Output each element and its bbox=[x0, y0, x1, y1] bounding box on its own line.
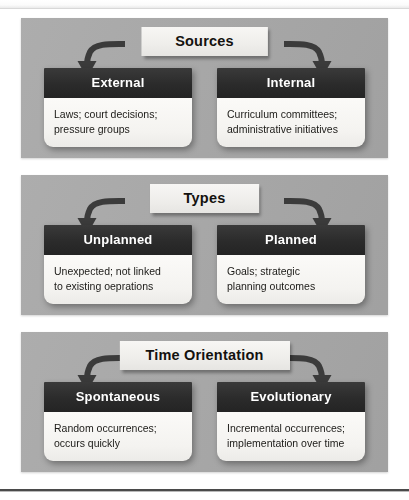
card-body: Laws; court decisions; pressure groups bbox=[44, 98, 192, 147]
card-body-line: Random occurrences; bbox=[54, 421, 183, 436]
card-body-line: implementation over time bbox=[227, 436, 356, 451]
card-heading: Unplanned bbox=[44, 225, 192, 255]
card-external: External Laws; court decisions; pressure… bbox=[44, 68, 192, 147]
card-body: Random occurrences; occurs quickly bbox=[44, 412, 192, 461]
panel-sources: Sources External Laws; court decisions; … bbox=[21, 18, 388, 158]
panel-title-sources: Sources bbox=[141, 27, 268, 56]
card-planned: Planned Goals; strategic planning outcom… bbox=[217, 225, 365, 304]
card-body: Goals; strategic planning outcomes bbox=[217, 255, 365, 304]
card-internal: Internal Curriculum committees; administ… bbox=[217, 68, 365, 147]
card-body-line: Unexpected; not linked bbox=[54, 264, 183, 279]
card-heading: Spontaneous bbox=[44, 382, 192, 412]
diagram-page: Sources External Laws; court decisions; … bbox=[0, 0, 409, 500]
card-body-line: to existing oeprations bbox=[54, 279, 183, 294]
card-heading: External bbox=[44, 68, 192, 98]
card-body: Unexpected; not linked to existing oepra… bbox=[44, 255, 192, 304]
panel-title-time-orientation: Time Orientation bbox=[119, 341, 289, 370]
card-body-line: Laws; court decisions; bbox=[54, 107, 183, 122]
card-body-line: Incremental occurrences; bbox=[227, 421, 356, 436]
panel-title-types: Types bbox=[150, 184, 260, 213]
card-body-line: pressure groups bbox=[54, 122, 183, 137]
scan-artifact-strip bbox=[0, 0, 409, 9]
card-heading: Planned bbox=[217, 225, 365, 255]
card-heading: Internal bbox=[217, 68, 365, 98]
panel-time-orientation: Time Orientation Spontaneous Random occu… bbox=[21, 332, 388, 472]
card-heading: Evolutionary bbox=[217, 382, 365, 412]
card-body-line: Goals; strategic bbox=[227, 264, 356, 279]
card-evolutionary: Evolutionary Incremental occurrences; im… bbox=[217, 382, 365, 461]
card-body-line: Curriculum committees; bbox=[227, 107, 356, 122]
card-body: Incremental occurrences; implementation … bbox=[217, 412, 365, 461]
page-bottom-rule bbox=[0, 489, 409, 491]
panel-types: Types Unplanned Unexpected; not linked t… bbox=[21, 175, 388, 315]
card-body-line: planning outcomes bbox=[227, 279, 356, 294]
card-body-line: administrative initiatives bbox=[227, 122, 356, 137]
card-body: Curriculum committees; administrative in… bbox=[217, 98, 365, 147]
card-unplanned: Unplanned Unexpected; not linked to exis… bbox=[44, 225, 192, 304]
card-body-line: occurs quickly bbox=[54, 436, 183, 451]
card-spontaneous: Spontaneous Random occurrences; occurs q… bbox=[44, 382, 192, 461]
